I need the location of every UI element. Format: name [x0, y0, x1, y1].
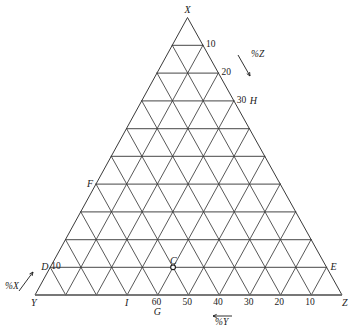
vertex-label-x: X — [185, 5, 191, 15]
grid-lines — [50, 45, 326, 295]
vertex-label-z: Z — [342, 298, 348, 308]
right-tick-20: 20 — [221, 68, 231, 78]
ternary-diagram-figure: X Y Z 10 20 30 10 60 50 40 30 20 10 C D … — [0, 0, 358, 328]
bottom-tick-20: 20 — [275, 298, 285, 308]
right-tick-10: 10 — [206, 40, 216, 50]
bottom-tick-50: 50 — [183, 298, 193, 308]
axis-label-pct-y: %Y — [215, 318, 228, 328]
left-tick-10: 10 — [51, 262, 61, 272]
point-label-d: D — [41, 262, 48, 272]
bottom-tick-40: 40 — [213, 298, 223, 308]
axis-label-pct-z: %Z — [251, 50, 264, 60]
point-label-i: I — [125, 298, 128, 308]
point-label-g: G — [154, 307, 161, 317]
vertex-label-y: Y — [31, 298, 37, 308]
bottom-tick-10: 10 — [305, 298, 315, 308]
point-label-e: E — [331, 262, 337, 272]
ternary-grid-svg — [0, 0, 358, 328]
right-tick-30: 30 — [237, 96, 247, 106]
point-label-h: H — [250, 96, 257, 106]
bottom-tick-30: 30 — [244, 298, 254, 308]
pct-z-arrow — [238, 55, 250, 76]
point-label-f: F — [87, 179, 93, 189]
axis-label-pct-x: %X — [5, 282, 19, 292]
point-label-c: C — [170, 256, 177, 266]
axis-arrows — [19, 55, 250, 318]
pct-x-arrow — [19, 272, 33, 291]
